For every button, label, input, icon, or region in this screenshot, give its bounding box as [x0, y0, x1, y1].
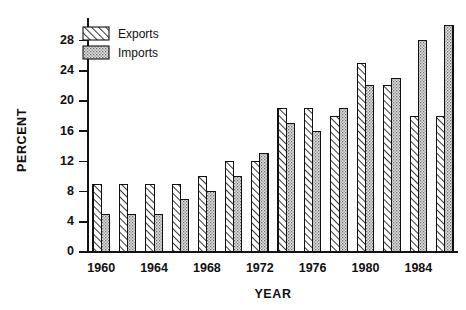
bar-imports: [313, 131, 321, 252]
bar-group: [172, 184, 188, 252]
bar-imports: [339, 109, 347, 252]
legend-swatch-exports: [83, 27, 109, 40]
x-tick-label: 1972: [246, 261, 274, 275]
bar-imports: [101, 214, 109, 252]
bar-exports: [146, 184, 154, 252]
legend-swatch-imports: [83, 46, 109, 59]
y-tick-label: 8: [67, 184, 74, 198]
x-tick-label: 1984: [404, 261, 432, 275]
x-tick-label: 1960: [87, 261, 115, 275]
y-tick-label: 12: [60, 154, 74, 168]
bar-group: [357, 63, 373, 252]
bar-group: [437, 26, 453, 252]
y-tick-label: 28: [60, 33, 74, 47]
bar-imports: [260, 154, 268, 252]
bar-exports: [252, 161, 260, 252]
legend-label-exports: Exports: [118, 27, 159, 41]
bar-exports: [172, 184, 180, 252]
bar-exports: [93, 184, 101, 252]
bar-imports: [233, 177, 241, 252]
bar-group: [119, 184, 135, 252]
legend-label-imports: Imports: [118, 46, 158, 60]
y-tick-label: 20: [60, 93, 74, 107]
bar-group: [278, 109, 294, 252]
bar-group: [252, 154, 268, 252]
bar-exports: [304, 109, 312, 252]
bar-imports: [181, 199, 189, 252]
bar-group: [410, 41, 426, 252]
bar-exports: [199, 177, 207, 252]
x-tick-label: 1968: [193, 261, 221, 275]
bar-group: [384, 78, 400, 252]
bar-imports: [418, 41, 426, 252]
y-tick-label: 4: [67, 214, 74, 228]
bar-imports: [154, 214, 162, 252]
x-axis-title: YEAR: [254, 287, 291, 301]
bar-group: [225, 161, 241, 252]
y-axis-title: PERCENT: [15, 108, 29, 172]
y-axis-ticks: 0481216202428: [60, 33, 88, 258]
bar-group: [331, 109, 347, 252]
bar-exports: [357, 63, 365, 252]
bar-exports: [225, 161, 233, 252]
bar-group: [146, 184, 162, 252]
bar-exports: [331, 116, 339, 252]
bar-imports: [128, 214, 136, 252]
x-tick-label: 1976: [299, 261, 327, 275]
bar-group: [93, 184, 109, 252]
bar-group: [304, 109, 320, 252]
bar-exports: [384, 86, 392, 252]
bar-imports: [445, 26, 453, 252]
x-tick-label: 1964: [140, 261, 168, 275]
x-axis-ticks: 1960196419681972197619801984: [87, 261, 432, 275]
bar-chart-figure: 0481216202428 19601964196819721976198019…: [0, 0, 466, 310]
chart-canvas: 0481216202428 19601964196819721976198019…: [0, 0, 466, 310]
bar-imports: [207, 192, 215, 252]
bar-group: [199, 177, 215, 252]
y-tick-label: 16: [60, 124, 74, 138]
y-tick-label: 0: [67, 244, 74, 258]
x-tick-label: 1980: [352, 261, 380, 275]
bar-exports: [410, 116, 418, 252]
bar-imports: [392, 78, 400, 252]
chart-legend: Exports Imports: [83, 27, 159, 60]
bar-exports: [119, 184, 127, 252]
bar-exports: [437, 116, 445, 252]
bar-imports: [366, 86, 374, 252]
y-tick-label: 24: [60, 63, 74, 77]
bar-imports: [286, 124, 294, 252]
bar-exports: [278, 109, 286, 252]
x-axis: 1960196419681972197619801984: [87, 252, 458, 275]
